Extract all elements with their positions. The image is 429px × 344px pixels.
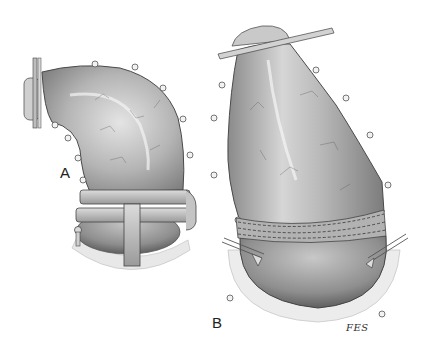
surgical-illustration: A B FES <box>0 0 429 344</box>
panel-label-b: B <box>212 315 222 330</box>
panel-label-a: A <box>60 165 70 180</box>
panel-b-drawing <box>211 26 408 322</box>
artist-signature: FES <box>346 322 369 333</box>
panel-a-drawing <box>24 58 196 270</box>
